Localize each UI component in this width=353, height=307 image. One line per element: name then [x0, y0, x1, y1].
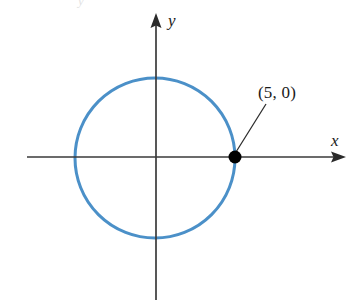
annotation-leader-line	[236, 104, 266, 152]
figure-container: x y (5, 0) y	[0, 0, 353, 307]
circle-figure-canvas	[0, 0, 353, 307]
point-5-0-marker	[229, 151, 242, 164]
scan-artifact-glyph: y	[78, 0, 84, 7]
circle-curve	[75, 78, 235, 238]
x-axis-label: x	[331, 132, 339, 149]
y-axis-label: y	[168, 12, 176, 29]
point-coordinate-label: (5, 0)	[258, 84, 296, 101]
